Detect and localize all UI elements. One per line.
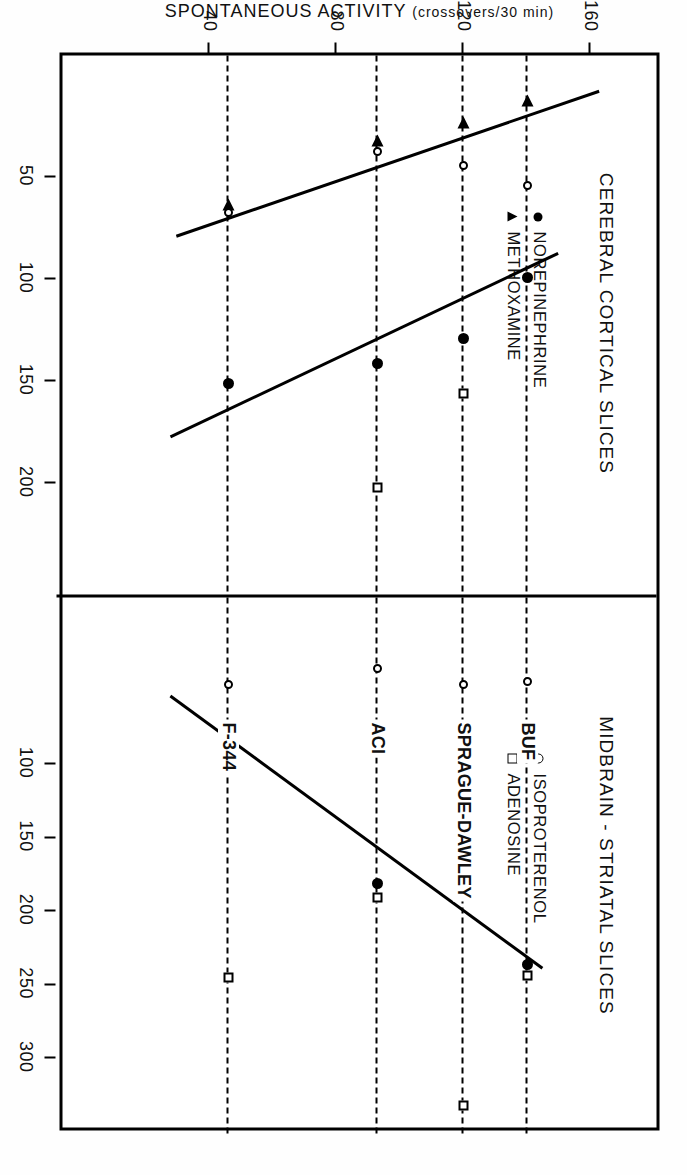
point-open-square xyxy=(458,1100,468,1110)
x-tick xyxy=(44,481,55,483)
y-tick xyxy=(461,42,463,53)
strain-connector-line xyxy=(525,55,527,591)
strain-label: SPRAGUE-DAWLEY xyxy=(453,719,474,901)
x-tick xyxy=(44,983,55,985)
strain-label: ACI xyxy=(367,719,388,757)
point-filled-triangle xyxy=(457,116,469,128)
y-tick xyxy=(588,42,590,53)
point-open-circle xyxy=(224,680,233,689)
x-tick xyxy=(44,379,55,381)
point-filled-circle xyxy=(372,877,383,888)
point-filled-circle xyxy=(458,333,469,344)
point-open-circle xyxy=(522,181,531,190)
point-open-square xyxy=(522,970,532,980)
filled-circle-icon xyxy=(532,205,547,227)
point-filled-circle xyxy=(372,357,383,368)
x-tick xyxy=(44,909,55,911)
point-filled-triangle xyxy=(371,134,383,146)
point-open-square xyxy=(372,482,382,492)
y-tick xyxy=(207,42,209,53)
x-tick xyxy=(44,277,55,279)
y-tick xyxy=(334,42,336,53)
strain-connector-line xyxy=(226,55,228,591)
legend-label-isoproterenol: ISOPROTERENOL xyxy=(526,773,552,923)
panel-title-midbrain-striatal: MIDBRAIN - STRIATAL SLICES xyxy=(594,597,616,1133)
figure-rotator: CEREBRAL CORTICAL SLICES NOREPINEPHRINE … xyxy=(0,0,687,1175)
legend-item-methoxamine: METHOXAMINE xyxy=(500,205,526,388)
point-open-circle xyxy=(459,680,468,689)
x-tick xyxy=(44,762,55,764)
point-open-circle xyxy=(522,677,531,686)
point-open-circle xyxy=(459,160,468,169)
point-open-circle xyxy=(373,663,382,672)
x-tick-label: 100 xyxy=(14,261,35,293)
plot-frame: CEREBRAL CORTICAL SLICES NOREPINEPHRINE … xyxy=(59,52,659,1130)
point-filled-circle xyxy=(223,378,234,389)
point-open-square xyxy=(223,972,233,982)
legend-item-norepinephrine: NOREPINEPHRINE xyxy=(526,205,552,388)
y-axis-label-text: SPONTANEOUS ACTIVITY xyxy=(164,0,405,20)
x-tick-label: 100 xyxy=(14,746,35,778)
point-filled-circle xyxy=(521,272,532,283)
legend-item-adenosine: ADENOSINE xyxy=(500,747,526,923)
strain-connector-line xyxy=(461,55,463,591)
x-tick-label: 200 xyxy=(14,893,35,925)
filled-triangle-icon xyxy=(506,205,521,227)
x-tick-label: 200 xyxy=(14,465,35,497)
x-tick xyxy=(44,1056,55,1058)
legend-label-methoxamine: METHOXAMINE xyxy=(500,231,526,360)
legend-item-isoproterenol: ISOPROTERENOL xyxy=(526,747,552,923)
point-filled-triangle xyxy=(521,94,533,106)
legend-label-adenosine: ADENOSINE xyxy=(500,773,526,876)
y-axis-label: SPONTANEOUS ACTIVITY (crossovers/30 min) xyxy=(59,0,659,21)
point-open-square xyxy=(372,892,382,902)
x-tick-label: 50 xyxy=(14,165,35,186)
x-tick xyxy=(44,175,55,177)
strain-connector-line xyxy=(226,597,228,1133)
x-tick-label: 150 xyxy=(14,820,35,852)
panel-midbrain-striatal: MIDBRAIN - STRIATAL SLICES ISOPROTERENOL… xyxy=(56,597,656,1133)
strain-label: F-344 xyxy=(218,719,239,774)
strain-label: BUF xyxy=(516,719,537,763)
x-tick-label: 250 xyxy=(14,967,35,999)
x-tick-label: 150 xyxy=(14,363,35,395)
panel-title-cerebral-cortical: CEREBRAL CORTICAL SLICES xyxy=(594,55,616,591)
strain-connector-line xyxy=(375,597,377,1133)
point-open-square xyxy=(458,388,468,398)
point-filled-circle xyxy=(521,958,532,969)
y-axis-units: (crossovers/30 min) xyxy=(412,3,554,19)
x-tick xyxy=(44,836,55,838)
panel-cerebral-cortical: CEREBRAL CORTICAL SLICES NOREPINEPHRINE … xyxy=(56,55,656,591)
x-tick-label: 300 xyxy=(14,1040,35,1072)
legend-label-norepinephrine: NOREPINEPHRINE xyxy=(526,231,552,388)
point-open-circle xyxy=(373,146,382,155)
point-open-circle xyxy=(224,207,233,216)
